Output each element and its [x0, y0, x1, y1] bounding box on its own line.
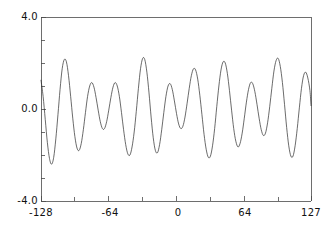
chart-root: 4.0 0.0 -4.0 -128 -64 0 64 127	[0, 0, 336, 234]
x-axis-label-max: 127	[293, 208, 329, 218]
y-axis-label-top: 4.0	[2, 12, 38, 22]
signal-curve	[41, 57, 311, 164]
x-axis-label-64: 64	[228, 208, 262, 218]
x-axis-label-minus64: -64	[92, 208, 128, 218]
x-axis-label-zero: 0	[161, 208, 195, 218]
y-axis-label-bottom: -4.0	[2, 196, 38, 206]
x-axis-label-min: -128	[22, 208, 60, 218]
line-chart-plot	[0, 0, 336, 234]
y-axis-label-mid: 0.0	[2, 104, 38, 114]
